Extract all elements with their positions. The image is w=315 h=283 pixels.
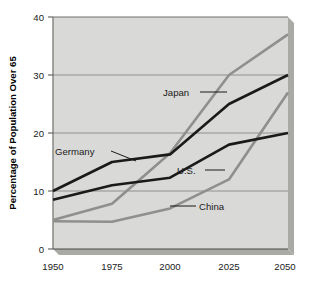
x-tick-label-2050: 2050: [274, 261, 295, 272]
y-tick-label-30: 30: [33, 70, 44, 81]
x-tick-label-2025: 2025: [218, 261, 239, 272]
y-tick-label-10: 10: [33, 186, 44, 197]
chart-figure: 40 30 20 10 0 Percentage of Population O…: [0, 0, 315, 283]
x-tick-label-1950: 1950: [42, 261, 63, 272]
series-label-germany: Germany: [55, 146, 95, 157]
plot-shadow-bottom: [53, 249, 294, 255]
series-label-china: China: [199, 201, 225, 212]
cropped-title-artifact: [0, 0, 315, 10]
y-tick-label-20: 20: [33, 128, 44, 139]
series-label-us: U.S.: [177, 165, 196, 176]
y-tick-label-0: 0: [39, 244, 44, 255]
series-label-japan: Japan: [163, 87, 189, 98]
x-tick-label-2000: 2000: [159, 261, 180, 272]
population-over-65-line-chart: 40 30 20 10 0 Percentage of Population O…: [0, 0, 315, 283]
y-tick-label-40: 40: [33, 12, 44, 23]
y-axis-title: Percentage of Population Over 65: [7, 56, 18, 210]
y-tick-marks: [48, 17, 53, 249]
x-tick-label-1975: 1975: [101, 261, 122, 272]
plot-shadow-right: [288, 17, 294, 255]
